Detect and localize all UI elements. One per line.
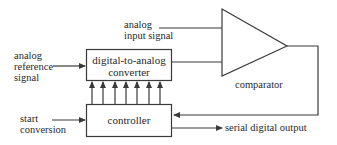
comparator-label: comparator xyxy=(235,79,283,90)
dac-label-line1: digital-to-analog xyxy=(86,54,172,66)
analog-input-line2: input signal xyxy=(124,30,173,41)
bus-arrows xyxy=(92,82,160,104)
analog-reference-line2: reference xyxy=(14,61,53,72)
dac-label: digital-to-analog converter xyxy=(86,54,172,78)
dac-label-line2: converter xyxy=(86,66,172,78)
controller-label: controller xyxy=(86,114,172,126)
serial-output-label: serial digital output xyxy=(225,122,307,133)
analog-reference-line1: analog xyxy=(14,50,53,61)
start-conversion-line2: conversion xyxy=(20,124,66,135)
comparator-triangle xyxy=(222,9,287,76)
start-conversion-line1: start xyxy=(20,113,66,124)
analog-input-label: analog input signal xyxy=(124,19,173,41)
start-conversion-label: start conversion xyxy=(20,113,66,135)
analog-reference-line3: signal xyxy=(14,72,53,83)
analog-input-line1: analog xyxy=(124,19,173,30)
analog-reference-label: analog reference signal xyxy=(14,50,53,83)
